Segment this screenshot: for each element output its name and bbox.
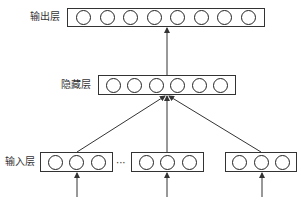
- input-group-box-1: [40, 152, 113, 172]
- connections-layer: [0, 0, 301, 204]
- hidden-layer-label: 隐藏层: [61, 79, 91, 91]
- input-node: [48, 155, 63, 170]
- input-node: [139, 155, 154, 170]
- input-node: [182, 155, 197, 170]
- output-layer-label: 输出层: [30, 11, 60, 23]
- hidden-node: [127, 78, 142, 93]
- hidden-node: [149, 78, 164, 93]
- input-group-box-2: [131, 152, 204, 172]
- input-node: [254, 155, 269, 170]
- input-node: [69, 155, 84, 170]
- arrow-input1-to-hidden: [77, 96, 165, 152]
- hidden-layer-box: [98, 75, 236, 95]
- input-layer-label: 输入层: [5, 156, 35, 168]
- hidden-node: [170, 78, 185, 93]
- hidden-node: [213, 78, 228, 93]
- output-node: [170, 10, 185, 25]
- output-node: [100, 10, 115, 25]
- input-ellipsis: ···: [116, 158, 126, 168]
- output-node: [241, 10, 256, 25]
- hidden-node: [192, 78, 207, 93]
- arrow-input3-to-hidden: [169, 96, 261, 152]
- input-node: [275, 155, 290, 170]
- input-group-box-3: [225, 152, 297, 172]
- input-node: [160, 155, 175, 170]
- output-node: [76, 10, 91, 25]
- input-node: [232, 155, 247, 170]
- input-node: [91, 155, 106, 170]
- output-node: [217, 10, 232, 25]
- output-node: [147, 10, 162, 25]
- output-node: [123, 10, 138, 25]
- output-layer-box: [67, 8, 265, 27]
- output-node: [194, 10, 209, 25]
- hidden-node: [106, 78, 121, 93]
